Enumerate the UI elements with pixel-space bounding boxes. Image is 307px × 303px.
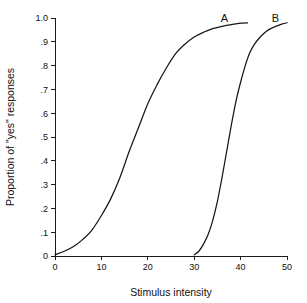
curve-annotations: AB <box>221 12 279 24</box>
y-tick-label: .7 <box>40 85 48 95</box>
x-tick-label: 0 <box>52 262 57 272</box>
y-tick-label: .6 <box>40 109 48 119</box>
y-tick-label: .1 <box>40 228 48 238</box>
chart-canvas: 0.1.2.3.4.5.6.7.8.91.0 01020304050 AB St… <box>0 0 307 303</box>
y-axis-title: Proportion of "yes" responses <box>4 68 16 206</box>
y-tick-label: .9 <box>40 37 48 47</box>
curve-series <box>55 23 287 255</box>
x-tick-label: 50 <box>282 262 292 272</box>
curve-label-b: B <box>272 12 279 24</box>
x-axis: 01020304050 <box>52 256 292 272</box>
y-tick-label: .5 <box>40 132 48 142</box>
x-tick-label: 20 <box>143 262 153 272</box>
y-tick-label: .4 <box>40 156 48 166</box>
y-tick-label: 1.0 <box>35 13 48 23</box>
x-tick-label: 10 <box>96 262 106 272</box>
y-tick-label: .8 <box>40 61 48 71</box>
y-tick-label: .2 <box>40 204 48 214</box>
x-axis-title: Stimulus intensity <box>130 286 212 298</box>
psychometric-function-chart: 0.1.2.3.4.5.6.7.8.91.0 01020304050 AB St… <box>0 0 307 303</box>
y-axis: 0.1.2.3.4.5.6.7.8.91.0 <box>35 13 55 261</box>
curve-label-a: A <box>221 12 229 24</box>
y-tick-label: 0 <box>43 251 48 261</box>
x-tick-label: 40 <box>236 262 246 272</box>
y-tick-label: .3 <box>40 180 48 190</box>
curve-a <box>55 23 248 255</box>
x-tick-label: 30 <box>189 262 199 272</box>
curve-b <box>194 23 287 255</box>
